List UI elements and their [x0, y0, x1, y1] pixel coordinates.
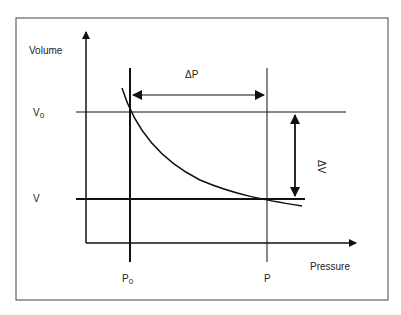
y-axis-label: Volume: [29, 45, 63, 56]
delta-p-label: ΔP: [185, 69, 199, 80]
pv-diagram: Volume Pressure ΔP ΔV V0 V P0 P: [0, 0, 401, 315]
x-axis-label: Pressure: [310, 261, 350, 272]
delta-v-label: ΔV: [316, 160, 327, 174]
p0-label: P0: [122, 273, 134, 286]
pv-curve: [122, 88, 302, 206]
v-label: V: [33, 193, 40, 204]
v0-label: V0: [33, 107, 45, 120]
frame-border: [16, 18, 388, 300]
p-label: P: [264, 273, 271, 284]
